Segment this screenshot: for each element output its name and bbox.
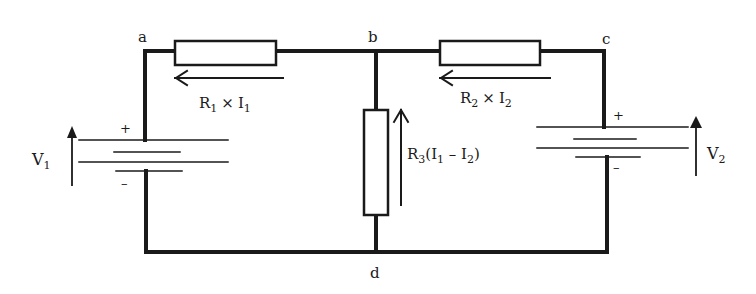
node-label-c: c xyxy=(602,30,610,48)
circuit-diagram: a b c d R1×I1 R2×I2 R3(I1 – I2) V1 + – V… xyxy=(0,0,756,294)
arrow-icon-v1 xyxy=(67,126,77,185)
resistor-r3 xyxy=(364,110,388,215)
node-label-a: a xyxy=(138,28,147,46)
arrow-icon-v2 xyxy=(690,116,702,175)
node-label-d: d xyxy=(370,264,380,282)
v1-plus-sign: + xyxy=(120,121,131,136)
resistor-r2 xyxy=(440,41,540,65)
label-v2: V2 xyxy=(706,144,726,166)
v2-minus-sign: – xyxy=(613,160,620,175)
v1-minus-sign: – xyxy=(121,176,128,191)
battery-v1 xyxy=(79,140,228,171)
arrow-icon-r1-drop xyxy=(175,71,283,85)
battery-v2 xyxy=(537,127,688,157)
arrow-icon-r2-drop xyxy=(440,71,550,85)
label-r1-drop: R1×I1 xyxy=(199,94,251,115)
label-r2-drop: R2×I2 xyxy=(460,89,512,110)
v2-plus-sign: + xyxy=(613,108,624,123)
label-r3-drop: R3(I1 – I2) xyxy=(407,145,480,166)
arrow-icon-r3-drop xyxy=(394,110,408,205)
label-v1: V1 xyxy=(31,150,51,172)
resistor-r1 xyxy=(175,41,276,65)
node-label-b: b xyxy=(368,28,378,46)
